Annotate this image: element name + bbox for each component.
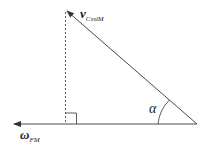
alpha-label: α [149,101,156,117]
omega-fm-label: ωFM [20,125,40,143]
v-csstm-vector [67,11,197,124]
v-csstm-label: vCsstM [80,4,104,22]
velocity-triangle-diagram [0,0,212,145]
alpha-angle-arc [158,100,170,124]
right-angle-marker [66,113,77,124]
